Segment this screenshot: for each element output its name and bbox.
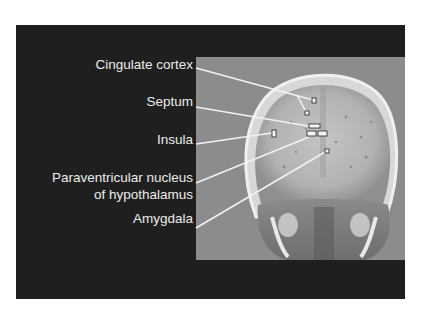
brain-scan-image [196,57,405,260]
label-cingulate-cortex: Cingulate cortex [95,57,193,73]
skull-brain-illustration [196,57,405,260]
label-of-hypothalamus: of hypothalamus [94,187,193,203]
label-septum: Septum [146,94,193,110]
label-amygdala: Amygdala [133,211,193,227]
label-insula: Insula [157,132,193,148]
label-paraventricular-nucleus: Paraventricular nucleus [52,170,193,186]
